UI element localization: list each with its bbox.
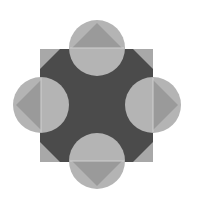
emblem-graphic xyxy=(0,0,199,200)
geometric-emblem xyxy=(0,0,199,200)
circle-top xyxy=(69,20,125,76)
circle-right xyxy=(125,77,181,133)
circle-left xyxy=(13,77,69,133)
circle-bottom xyxy=(69,133,125,189)
